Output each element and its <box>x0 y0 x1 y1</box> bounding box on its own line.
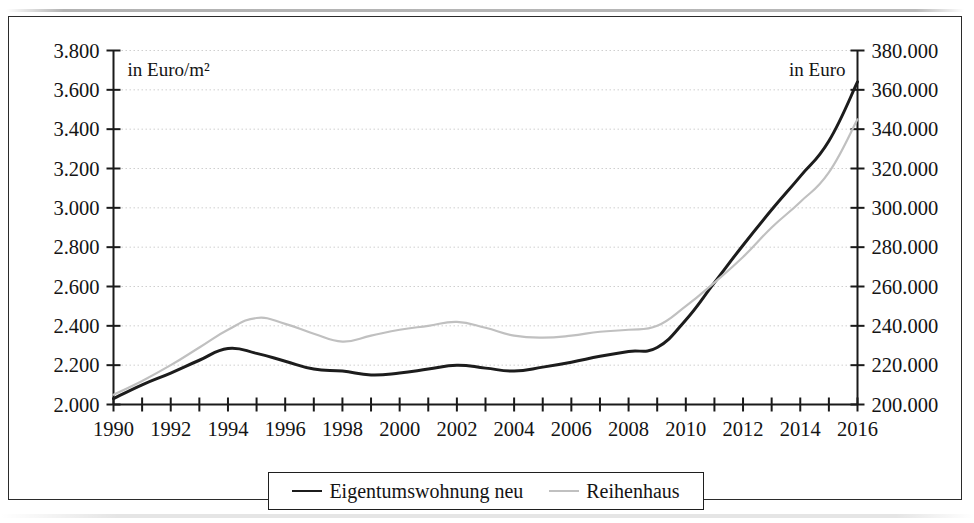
scan-artifact-bottom <box>0 514 974 518</box>
plot-area-wrapper: 2.0002.2002.4002.6002.8003.0003.2003.400… <box>0 0 974 523</box>
axis-x-tick-label: 2006 <box>551 418 592 440</box>
annotation-left-unit: in Euro/m² <box>128 59 211 80</box>
axis-left-tick-label: 3.800 <box>53 40 99 62</box>
axis-x-tick-label: 1990 <box>93 418 134 440</box>
axis-right-tick-label: 260.000 <box>872 276 939 298</box>
axis-left-tick-label: 3.000 <box>53 197 99 219</box>
chart-figure: 2.0002.2002.4002.6002.8003.0003.2003.400… <box>0 0 974 523</box>
series-line-reihenhaus <box>114 119 858 394</box>
axis-x-tick-label: 2012 <box>723 418 764 440</box>
axis-left-tick-label: 2.000 <box>53 394 99 416</box>
axis-left-tick-label: 3.400 <box>53 118 99 140</box>
axis-right-tick-label: 280.000 <box>872 236 939 258</box>
axis-left-tick-label: 2.400 <box>53 315 99 337</box>
axis-x-tick-label: 2000 <box>379 418 420 440</box>
axis-x-tick-label: 2010 <box>665 418 706 440</box>
axis-right-tick-label: 320.000 <box>872 158 939 180</box>
axis-right-tick-label: 300.000 <box>872 197 939 219</box>
axis-x-tick-label: 2014 <box>780 418 821 440</box>
legend-line-swatch-light-icon <box>549 490 579 492</box>
annotation-right-unit: in Euro <box>789 59 845 80</box>
legend-line-swatch-dark-icon <box>292 490 322 492</box>
legend-item-eigentumswohnung-neu: Eigentumswohnung neu <box>292 480 523 503</box>
legend-item-reihenhaus: Reihenhaus <box>549 480 679 503</box>
axis-right-tick-label: 380.000 <box>872 40 939 62</box>
axis-right-tick-label: 360.000 <box>872 79 939 101</box>
axis-x-tick-label: 2004 <box>494 418 535 440</box>
axis-right-tick-label: 240.000 <box>872 315 939 337</box>
axis-x-tick-label: 1998 <box>322 418 363 440</box>
axis-x-tick-label: 2002 <box>436 418 477 440</box>
axis-left-tick-label: 3.200 <box>53 158 99 180</box>
axis-left-tick-label: 2.600 <box>53 276 99 298</box>
axis-left-tick-label: 2.800 <box>53 236 99 258</box>
axis-left-tick-label: 3.600 <box>53 79 99 101</box>
axis-x-tick-label: 1992 <box>150 418 191 440</box>
axis-right-tick-label: 200.000 <box>872 394 939 416</box>
line-chart: 2.0002.2002.4002.6002.8003.0003.2003.400… <box>0 0 974 523</box>
chart-legend: Eigentumswohnung neu Reihenhaus <box>268 472 704 510</box>
axis-x-tick-label: 2008 <box>608 418 649 440</box>
legend-label-eigentumswohnung-neu: Eigentumswohnung neu <box>329 480 523 503</box>
axis-right-tick-label: 340.000 <box>872 118 939 140</box>
legend-label-reihenhaus: Reihenhaus <box>586 480 679 503</box>
axis-x-tick-label: 1994 <box>207 418 248 440</box>
axis-x-tick-label: 2016 <box>837 418 878 440</box>
axis-x-tick-label: 1996 <box>265 418 306 440</box>
axis-right-tick-label: 220.000 <box>872 354 939 376</box>
axis-left-tick-label: 2.200 <box>53 354 99 376</box>
